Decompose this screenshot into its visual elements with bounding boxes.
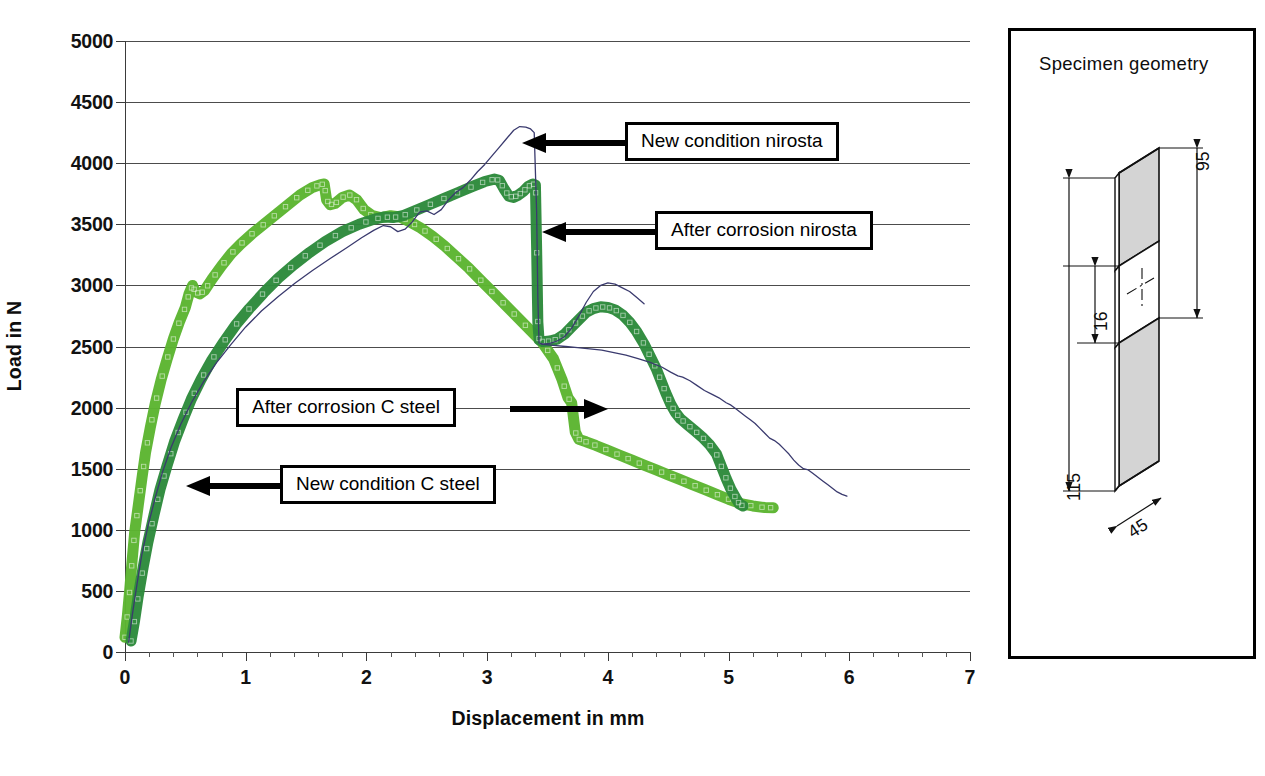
callout-new-condition-c-steel[interactable]: New condition C steel — [280, 465, 496, 504]
arrow-after-corrosion-c-steel — [510, 398, 610, 420]
callout-after-corrosion-c-steel[interactable]: After corrosion C steel — [236, 388, 456, 427]
arrow-after-corrosion-nirosta — [540, 221, 660, 243]
arrow-new-condition-nirosta — [520, 132, 630, 154]
dimension-95: 95 — [1193, 152, 1214, 171]
dimension-16: 16 — [1091, 312, 1112, 331]
callout-new-condition-nirosta[interactable]: New condition nirosta — [625, 122, 839, 161]
chart-figure: 0500100015002000250030003500400045005000… — [0, 0, 1000, 776]
data-curves — [0, 0, 1000, 776]
y-axis-title: Load in N — [3, 301, 26, 392]
specimen-geometry-title: Specimen geometry — [1039, 53, 1209, 75]
dimension-115: 115 — [1064, 473, 1085, 501]
series-after-corrosion-nirosta — [541, 344, 846, 496]
x-axis-title: Displacement in mm — [451, 707, 644, 730]
specimen-geometry-panel: Specimen geometry — [1008, 28, 1256, 659]
callout-after-corrosion-nirosta[interactable]: After corrosion nirosta — [655, 211, 873, 250]
arrow-new-condition-c-steel — [184, 475, 284, 497]
figure-root: 0500100015002000250030003500400045005000… — [0, 0, 1265, 776]
